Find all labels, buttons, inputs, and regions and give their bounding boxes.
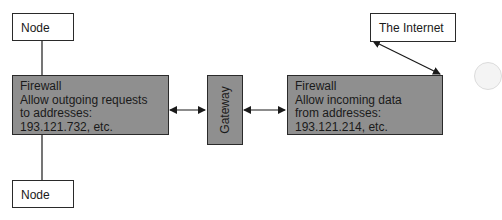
node-top-label: Node [21, 21, 50, 35]
edge-circle-decoration [474, 62, 502, 90]
firewall-right-line-2: from addresses: [295, 107, 442, 121]
node-bottom: Node [12, 180, 74, 208]
internet-label: The Internet [379, 21, 444, 35]
node-bottom-label: Node [21, 188, 50, 202]
firewall-left-title: Firewall [20, 80, 168, 94]
firewall-left-line-2: to addresses: [20, 107, 168, 121]
node-top: Node [12, 13, 74, 41]
edge-firewall-internet [373, 41, 440, 74]
firewall-right-line-1: Allow incoming data [295, 94, 442, 108]
firewall-left: Firewall Allow outgoing requests to addr… [12, 75, 169, 135]
firewall-left-line-3: 193.121.732, etc. [20, 121, 168, 135]
gateway-label: Gateway [218, 86, 232, 133]
internet-box: The Internet [370, 13, 456, 42]
gateway-box: Gateway [207, 75, 243, 145]
firewall-right-line-3: 193.121.214, etc. [295, 121, 442, 135]
firewall-right-title: Firewall [295, 80, 442, 94]
firewall-right: Firewall Allow incoming data from addres… [287, 75, 443, 135]
firewall-left-line-1: Allow outgoing requests [20, 94, 168, 108]
